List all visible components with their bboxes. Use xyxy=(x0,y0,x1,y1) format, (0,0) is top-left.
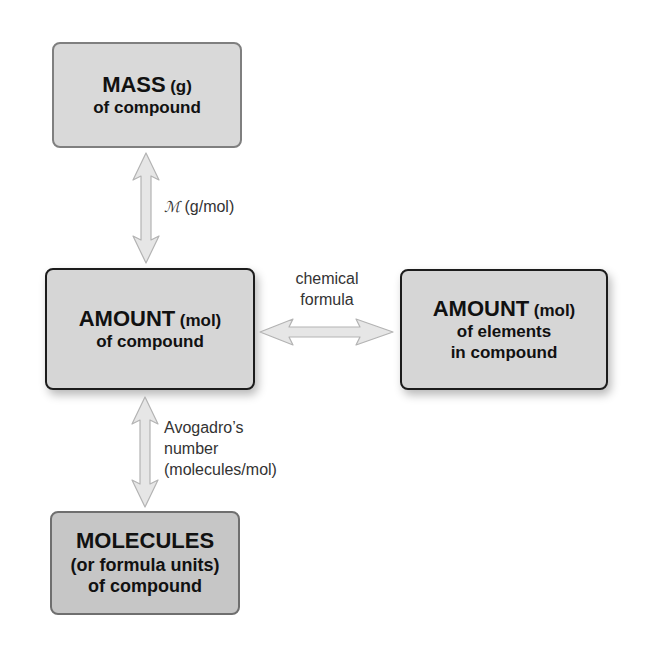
double-arrow-vertical-icon xyxy=(131,396,159,508)
double-arrow-horizontal-icon xyxy=(259,318,394,346)
amount-compound-title: AMOUNT xyxy=(79,306,176,331)
chemical-formula-label: chemical formula xyxy=(282,269,372,311)
molecules-subtitle-1: (or formula units) xyxy=(71,555,220,577)
avogadro-line1: Avogadro’s xyxy=(164,418,277,439)
amount-elements-title: AMOUNT xyxy=(433,296,530,321)
avogadro-number-label: Avogadro’s number (molecules/mol) xyxy=(164,418,277,480)
molecules-subtitle-2: of compound xyxy=(88,576,202,598)
amount-elements-heading: AMOUNT (mol) xyxy=(433,296,576,322)
chemical-formula-line1: chemical xyxy=(282,269,372,290)
mass-of-compound-box: MASS (g) of compound xyxy=(52,42,242,148)
amount-elements-unit: (mol) xyxy=(534,301,576,320)
amount-of-elements-box: AMOUNT (mol) of elements in compound xyxy=(400,269,608,390)
amount-compound-unit: (mol) xyxy=(180,311,222,330)
molecules-of-compound-box: MOLECULES (or formula units) of compound xyxy=(50,511,240,615)
avogadro-line3: (molecules/mol) xyxy=(164,460,277,481)
amount-elements-subtitle-2: in compound xyxy=(451,343,558,363)
amount-elements-subtitle-1: of elements xyxy=(457,322,551,342)
avogadro-line2: number xyxy=(164,439,277,460)
molecules-title: MOLECULES xyxy=(76,528,214,554)
molar-mass-label: ℳ (g/mol) xyxy=(164,197,234,218)
molar-mass-units: (g/mol) xyxy=(184,198,234,215)
mass-unit: (g) xyxy=(170,77,192,96)
chemical-formula-line2: formula xyxy=(282,290,372,311)
molar-mass-symbol: ℳ xyxy=(164,198,180,216)
amount-of-compound-box: AMOUNT (mol) of compound xyxy=(45,268,255,390)
mass-box-heading: MASS (g) xyxy=(102,72,192,98)
double-arrow-vertical-icon xyxy=(132,152,160,264)
mass-subtitle: of compound xyxy=(93,98,201,118)
amount-compound-heading: AMOUNT (mol) xyxy=(79,306,222,332)
mass-title: MASS xyxy=(102,72,166,97)
amount-compound-subtitle: of compound xyxy=(96,332,204,352)
